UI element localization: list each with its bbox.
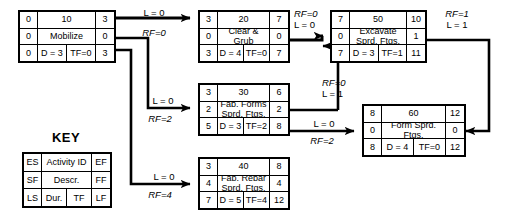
edge-lag: L = 0 xyxy=(139,96,187,107)
node-duration: D = 4 xyxy=(217,45,243,61)
node-duration: D = 3 xyxy=(217,118,243,134)
key-es: ES xyxy=(24,154,41,171)
node-lf: 7 xyxy=(269,45,288,61)
node-row-early: 3 40 8 xyxy=(200,159,288,175)
edge-label-10-20-rf: RF=0 xyxy=(123,28,185,39)
node-sf: 0 xyxy=(332,29,349,45)
node-ls: 8 xyxy=(364,139,381,155)
key-descr: Descr. xyxy=(41,172,91,189)
node-ff: 0 xyxy=(445,123,464,139)
node-ff: 1 xyxy=(406,29,425,45)
edge-lag: L = 0 xyxy=(298,119,350,130)
edge-lag: L = 1 xyxy=(432,20,482,31)
edge-lag: L = 1 xyxy=(322,89,346,100)
node-ls: 7 xyxy=(332,45,349,61)
activity-node-10[interactable]: 0 10 3 0 Mobilize 0 0 D = 3 TF=0 3 xyxy=(18,10,116,63)
node-sf: 0 xyxy=(200,29,217,45)
node-es: 8 xyxy=(364,106,381,122)
node-ff: 0 xyxy=(269,29,288,45)
node-total-float: TF=0 xyxy=(66,45,95,61)
node-row-late: 8 D = 4 TF=0 12 xyxy=(364,138,464,155)
node-row-early: 3 20 7 xyxy=(200,12,288,28)
node-total-float: TF=4 xyxy=(243,192,269,208)
node-activity-id: 10 xyxy=(37,12,95,28)
activity-node-30[interactable]: 3 30 6 2 Fab. Forms Sprd. Ftgs. 2 5 D = … xyxy=(198,83,290,136)
edge-label-10-30-rf: RF=2 xyxy=(136,114,184,125)
node-ls: 0 xyxy=(20,45,37,61)
node-ef: 12 xyxy=(445,106,464,122)
node-row-early: 7 50 10 xyxy=(332,12,425,28)
node-es: 3 xyxy=(200,159,217,175)
key-ls: LS xyxy=(24,189,41,206)
node-total-float: TF=2 xyxy=(243,118,269,134)
network-diagram-canvas: 0 10 3 0 Mobilize 0 0 D = 3 TF=0 3 3 20 … xyxy=(0,0,510,220)
node-lf: 12 xyxy=(269,192,288,208)
node-row-float: 0 Form Sprd. Ftgs. 0 xyxy=(364,122,464,139)
key-legend-box: ES Activity ID EF SF Descr. FF LS Dur. T… xyxy=(22,152,112,208)
key-activity-id: Activity ID xyxy=(41,154,91,171)
edge-label-20-50: RF=0 L = 0 xyxy=(294,9,318,31)
node-total-float: TF=0 xyxy=(413,139,445,155)
edge-label-30-60-rf: RF=2 xyxy=(296,136,348,147)
node-ef: 6 xyxy=(269,85,288,101)
edge-rf: RF=2 xyxy=(136,114,184,125)
node-ff: 4 xyxy=(269,176,288,192)
node-row-float: 2 Fab. Forms Sprd. Ftgs. 2 xyxy=(200,101,288,118)
node-ff: 0 xyxy=(95,29,114,45)
node-ef: 8 xyxy=(269,159,288,175)
node-lf: 12 xyxy=(445,139,464,155)
key-sf: SF xyxy=(24,172,41,189)
edge-rf: RF=0 xyxy=(123,28,185,39)
node-description: Excavate Sprd. Ftgs. xyxy=(349,29,406,45)
node-description: Fab. Forms Sprd. Ftgs. xyxy=(217,102,269,118)
node-row-early: 8 60 12 xyxy=(364,106,464,122)
node-total-float: TF=1 xyxy=(378,45,407,61)
edge-rf: RF=4 xyxy=(136,190,184,201)
edge-label-10-30: L = 0 xyxy=(139,96,187,107)
node-ls: 3 xyxy=(200,45,217,61)
node-sf: 2 xyxy=(200,102,217,118)
node-row-early: 3 30 6 xyxy=(200,85,288,101)
key-title: KEY xyxy=(20,130,112,145)
node-activity-id: 20 xyxy=(217,12,269,28)
node-duration: D = 3 xyxy=(37,45,66,61)
edge-label-50-60: RF=1 L = 1 xyxy=(432,9,482,31)
key-row-float: SF Descr. FF xyxy=(24,171,110,189)
node-activity-id: 30 xyxy=(217,85,269,101)
node-lf: 8 xyxy=(269,118,288,134)
edge-label-30-60: L = 0 xyxy=(298,119,350,130)
node-activity-id: 50 xyxy=(349,12,406,28)
activity-node-40[interactable]: 3 40 8 4 Fab. Rebar Sprd. Ftgs. 4 7 D = … xyxy=(198,157,290,210)
edge-label-10-40: L = 0 xyxy=(140,172,188,183)
node-duration: D = 3 xyxy=(349,45,378,61)
edge-20-50 xyxy=(290,36,323,40)
key-dur: Dur. xyxy=(41,189,66,206)
node-description: Fab. Rebar Sprd. Ftgs. xyxy=(217,176,269,192)
key-lf: LF xyxy=(91,189,110,206)
edge-rf: RF=2 xyxy=(296,136,348,147)
node-row-late: 5 D = 3 TF=2 8 xyxy=(200,117,288,134)
node-ls: 7 xyxy=(200,192,217,208)
key-ef: EF xyxy=(91,154,110,171)
activity-node-20[interactable]: 3 20 7 0 Clear & Grub 0 3 D = 4 TF=0 7 xyxy=(198,10,290,63)
node-row-float: 0 Clear & Grub 0 xyxy=(200,28,288,45)
edge-lag: L = 0 xyxy=(294,20,318,31)
edge-label-30-50: RF=0 L = 1 xyxy=(322,78,346,100)
node-duration: D = 4 xyxy=(381,139,413,155)
edge-label-10-20: L = 0 xyxy=(123,8,185,19)
key-row-late: LS Dur. TF LF xyxy=(24,188,110,206)
node-sf: 4 xyxy=(200,176,217,192)
node-row-float: 4 Fab. Rebar Sprd. Ftgs. 4 xyxy=(200,175,288,192)
node-description: Form Sprd. Ftgs. xyxy=(381,123,445,139)
node-description: Mobilize xyxy=(37,29,95,45)
node-duration: D = 5 xyxy=(217,192,243,208)
activity-node-50[interactable]: 7 50 10 0 Excavate Sprd. Ftgs. 1 7 D = 3… xyxy=(330,10,427,63)
activity-node-60[interactable]: 8 60 12 0 Form Sprd. Ftgs. 0 8 D = 4 TF=… xyxy=(362,104,466,157)
node-sf: 0 xyxy=(20,29,37,45)
node-activity-id: 40 xyxy=(217,159,269,175)
node-es: 0 xyxy=(20,12,37,28)
node-sf: 0 xyxy=(364,123,381,139)
node-row-float: 0 Excavate Sprd. Ftgs. 1 xyxy=(332,28,425,45)
node-ef: 10 xyxy=(406,12,425,28)
node-row-late: 3 D = 4 TF=0 7 xyxy=(200,44,288,61)
